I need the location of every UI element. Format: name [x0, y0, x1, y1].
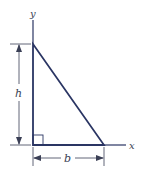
x-axis-label: x [129, 140, 135, 151]
y-axis-label: y [29, 8, 36, 19]
height-label: h [15, 87, 22, 100]
base-label: b [64, 152, 71, 165]
triangle-diagram: y x h b [0, 0, 142, 176]
right-angle-marker [33, 135, 43, 145]
right-triangle [33, 44, 104, 145]
